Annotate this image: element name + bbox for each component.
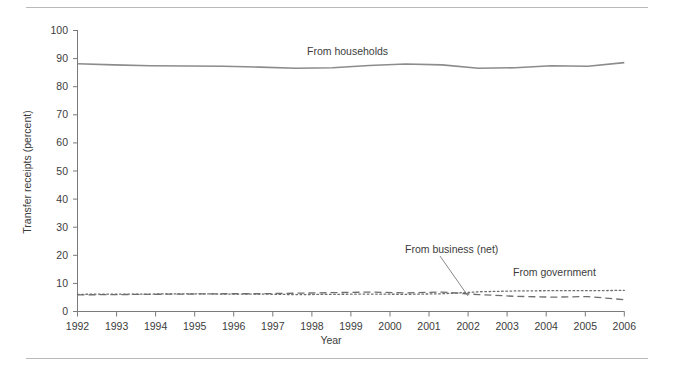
- xtick-label-2004: 2004: [526, 320, 566, 332]
- x-axis-title: Year: [301, 334, 361, 346]
- xtick-label-2006: 2006: [604, 320, 644, 332]
- xtick-label-1997: 1997: [253, 320, 293, 332]
- ytick-label-50: 50: [40, 165, 68, 177]
- xtick-label-1992: 1992: [58, 320, 98, 332]
- ytick-label-60: 60: [40, 136, 68, 148]
- ytick-label-90: 90: [40, 52, 68, 64]
- xtick-label-1994: 1994: [136, 320, 176, 332]
- series-line-from-government: [78, 290, 625, 294]
- business-annotation-leader-line: [440, 256, 468, 296]
- chart-figure: 100 90 80 70 60 50 40 30 20 10 0 1992 19…: [0, 0, 674, 370]
- y-axis-title: Transfer receipts (percent): [21, 92, 33, 252]
- series-line-from-households: [78, 63, 625, 69]
- xtick-label-1995: 1995: [175, 320, 215, 332]
- ytick-label-0: 0: [40, 305, 68, 317]
- xtick-label-1998: 1998: [292, 320, 332, 332]
- series-line-from-business: [78, 292, 625, 300]
- series-label-from-households: From households: [307, 45, 388, 57]
- ytick-label-10: 10: [40, 277, 68, 289]
- series-label-from-business: From business (net): [405, 243, 498, 255]
- xtick-label-2002: 2002: [448, 320, 488, 332]
- xtick-label-1999: 1999: [331, 320, 371, 332]
- xtick-label-1996: 1996: [214, 320, 254, 332]
- ytick-label-100: 100: [40, 24, 68, 36]
- ytick-label-30: 30: [40, 221, 68, 233]
- xtick-label-2001: 2001: [409, 320, 449, 332]
- x-tick-marks: [78, 312, 625, 317]
- ytick-label-70: 70: [40, 108, 68, 120]
- ytick-label-80: 80: [40, 80, 68, 92]
- ytick-label-40: 40: [40, 193, 68, 205]
- xtick-label-1993: 1993: [97, 320, 137, 332]
- ytick-label-20: 20: [40, 249, 68, 261]
- xtick-label-2005: 2005: [565, 320, 605, 332]
- xtick-label-2000: 2000: [370, 320, 410, 332]
- y-tick-marks: [73, 31, 78, 312]
- xtick-label-2003: 2003: [487, 320, 527, 332]
- series-label-from-government: From government: [513, 266, 596, 278]
